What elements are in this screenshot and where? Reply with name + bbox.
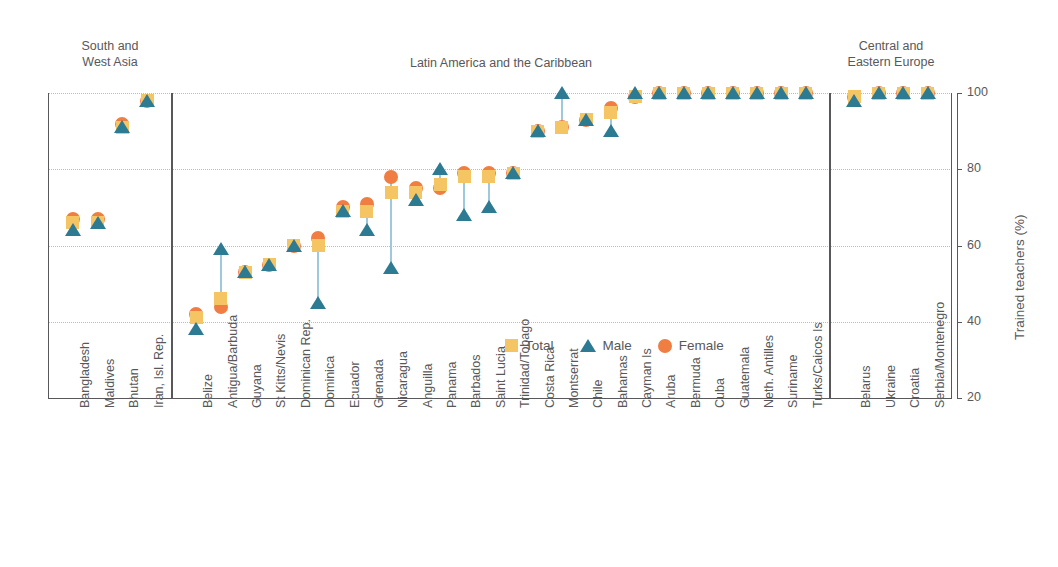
y-tick-mark-80 bbox=[957, 169, 962, 170]
data-point-male bbox=[603, 124, 619, 137]
y-tick-mark-40 bbox=[957, 322, 962, 323]
x-axis-label: Turks/Caicos Is bbox=[811, 322, 825, 408]
legend-item-male[interactable]: Male bbox=[580, 338, 632, 353]
legend-item-total[interactable]: Total bbox=[505, 338, 554, 353]
data-point-total bbox=[482, 170, 495, 183]
y-tick-label-80: 80 bbox=[967, 161, 981, 175]
chart-legend: TotalMaleFemale bbox=[505, 338, 724, 353]
x-axis-label: Ukraine bbox=[884, 365, 898, 408]
data-point-male bbox=[237, 265, 253, 278]
y-tick-label-20: 20 bbox=[967, 390, 981, 404]
panel-title-central-eastern-europe: Central and Eastern Europe bbox=[830, 38, 952, 70]
data-point-total bbox=[214, 292, 227, 305]
legend-label: Total bbox=[525, 338, 554, 353]
data-point-total bbox=[604, 106, 617, 119]
legend-square-icon bbox=[505, 339, 518, 352]
data-point-male bbox=[114, 120, 130, 133]
data-point-male bbox=[725, 86, 741, 99]
data-point-male bbox=[627, 86, 643, 99]
data-point-male bbox=[335, 204, 351, 217]
x-axis-label: Panama bbox=[445, 361, 459, 408]
x-axis-label: Iran, Isl. Rep. bbox=[152, 334, 166, 408]
x-axis-label: Costa Rica bbox=[543, 347, 557, 408]
x-axis-label: Neth. Antilles bbox=[762, 335, 776, 408]
data-point-male bbox=[505, 166, 521, 179]
x-axis-label: Dominican Rep. bbox=[299, 319, 313, 408]
x-axis-label: Guatemala bbox=[738, 347, 752, 408]
data-point-male bbox=[846, 94, 862, 107]
data-point-male bbox=[65, 223, 81, 236]
x-axis-label: Suriname bbox=[786, 355, 800, 409]
data-point-male bbox=[90, 216, 106, 229]
x-axis-label: Guyana bbox=[250, 364, 264, 408]
data-point-male bbox=[310, 296, 326, 309]
data-point-male bbox=[359, 223, 375, 236]
x-axis-label: Aruba bbox=[664, 375, 678, 408]
x-axis-label: Bahamas bbox=[616, 355, 630, 408]
data-point-male bbox=[554, 86, 570, 99]
x-axis-label: Grenada bbox=[372, 359, 386, 408]
legend-label: Female bbox=[679, 338, 724, 353]
data-point-male bbox=[651, 86, 667, 99]
data-point-male bbox=[213, 242, 229, 255]
legend-item-female[interactable]: Female bbox=[658, 338, 724, 353]
legend-triangle-icon bbox=[580, 339, 596, 352]
x-axis-label: Chile bbox=[591, 380, 605, 409]
x-axis-label: Belarus bbox=[859, 366, 873, 408]
y-tick-mark-100 bbox=[957, 93, 962, 94]
data-point-male bbox=[261, 258, 277, 271]
data-point-total bbox=[385, 186, 398, 199]
y-tick-mark-60 bbox=[957, 246, 962, 247]
data-point-male bbox=[432, 162, 448, 175]
y-tick-label-40: 40 bbox=[967, 314, 981, 328]
data-point-male bbox=[456, 208, 472, 221]
x-axis-label: Bhutan bbox=[127, 368, 141, 408]
data-point-male bbox=[871, 86, 887, 99]
panel-title-south-west-asia: South and West Asia bbox=[48, 38, 172, 70]
data-point-male bbox=[481, 200, 497, 213]
data-point-male bbox=[773, 86, 789, 99]
x-axis-label: Cayman Is bbox=[640, 348, 654, 408]
x-axis-label: Bangladesh bbox=[78, 342, 92, 408]
data-point-male bbox=[920, 86, 936, 99]
x-axis-label: Ecuador bbox=[348, 361, 362, 408]
data-point-male bbox=[530, 124, 546, 137]
data-point-male bbox=[383, 261, 399, 274]
legend-circle-icon bbox=[658, 339, 672, 353]
x-axis-label: Croatia bbox=[908, 368, 922, 408]
data-point-male bbox=[286, 239, 302, 252]
x-axis-label: Belize bbox=[201, 374, 215, 408]
x-axis-label: Dominica bbox=[323, 356, 337, 408]
data-point-male bbox=[188, 322, 204, 335]
x-axis-label: Nicaragua bbox=[396, 351, 410, 408]
x-axis-label: Saint Lucia bbox=[494, 346, 508, 408]
data-point-male bbox=[798, 86, 814, 99]
legend-label: Male bbox=[603, 338, 632, 353]
x-axis-label: Serbia/Montenegro bbox=[933, 302, 947, 408]
data-point-male bbox=[139, 94, 155, 107]
x-axis-label: Montserrat bbox=[567, 348, 581, 408]
y-tick-label-60: 60 bbox=[967, 238, 981, 252]
x-axis-label: Maldives bbox=[103, 359, 117, 408]
data-point-male bbox=[895, 86, 911, 99]
data-point-total bbox=[555, 121, 568, 134]
data-point-total bbox=[360, 205, 373, 218]
data-point-male bbox=[578, 113, 594, 126]
x-axis-label: Anguilla bbox=[421, 364, 435, 408]
data-point-total bbox=[312, 239, 325, 252]
x-axis-label: St Kitts/Nevis bbox=[274, 334, 288, 408]
data-point-male bbox=[749, 86, 765, 99]
chart-root: South and West Asia Latin America and th… bbox=[0, 0, 1058, 567]
x-axis-label: Bermuda bbox=[689, 357, 703, 408]
data-point-male bbox=[676, 86, 692, 99]
x-axis-label: Trinidad/Tobago bbox=[518, 319, 532, 408]
panel-title-latin-america: Latin America and the Caribbean bbox=[172, 55, 830, 71]
data-point-male bbox=[408, 193, 424, 206]
x-axis-label: Barbados bbox=[469, 354, 483, 408]
y-tick-label-100: 100 bbox=[967, 85, 988, 99]
x-axis-label: Cuba bbox=[713, 378, 727, 408]
y-tick-mark-20 bbox=[957, 398, 962, 399]
x-axis-label: Antigua/Barbuda bbox=[226, 315, 240, 408]
data-point-total bbox=[458, 170, 471, 183]
y-axis-title: Trained teachers (%) bbox=[1012, 214, 1027, 340]
